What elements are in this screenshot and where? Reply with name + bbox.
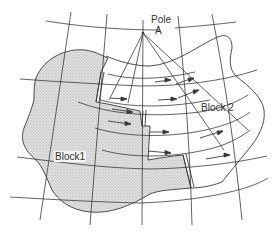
arrow-icon [178, 90, 199, 98]
pole-letter-label: A [155, 25, 162, 36]
rotation-diagram [0, 0, 279, 235]
block1-label: Block1 [54, 151, 86, 162]
arrow-icon [155, 78, 171, 82]
block2-label: Block 2 [201, 102, 234, 113]
pole-label: Pole [151, 14, 171, 25]
arrow-icon [158, 97, 177, 101]
arrow-icon [148, 151, 171, 155]
arrow-icon [150, 130, 169, 134]
arrow-icon [110, 97, 127, 101]
pole-point [142, 32, 145, 35]
arrow-icon [206, 153, 230, 159]
